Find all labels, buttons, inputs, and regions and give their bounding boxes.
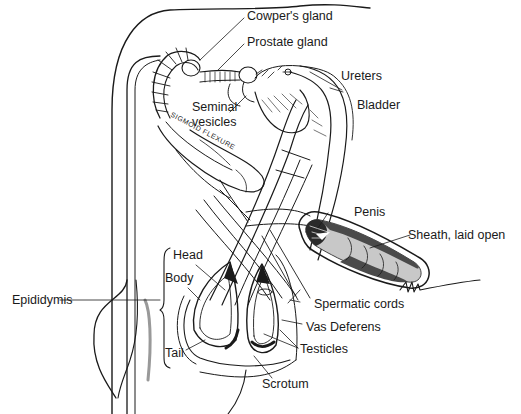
label-seminal-vesicles-1: Seminal [192,101,237,115]
label-head: Head [173,249,203,263]
label-vas-deferens: Vas Deferens [306,321,381,335]
label-scrotum: Scrotum [262,378,309,392]
label-ureters: Ureters [341,70,382,84]
label-penis: Penis [354,206,385,220]
label-spermatic-cords: Spermatic cords [314,298,404,312]
label-bladder: Bladder [357,99,400,113]
label-testicles: Testicles [300,343,348,357]
bladder-region [228,66,336,133]
label-prostate-gland: Prostate gland [247,36,328,50]
label-cowpers-gland: Cowper's gland [247,10,333,24]
sheath [299,212,480,292]
label-epididymis: Epididymis [12,294,72,308]
label-tail: Tail [165,347,184,361]
label-seminal-vesicles-2: vesicles [192,116,236,130]
anatomy-diagram: SIGMOID FLEXURE [0,0,521,414]
label-sheath: Sheath, laid open [408,229,505,243]
label-body: Body [165,272,194,286]
